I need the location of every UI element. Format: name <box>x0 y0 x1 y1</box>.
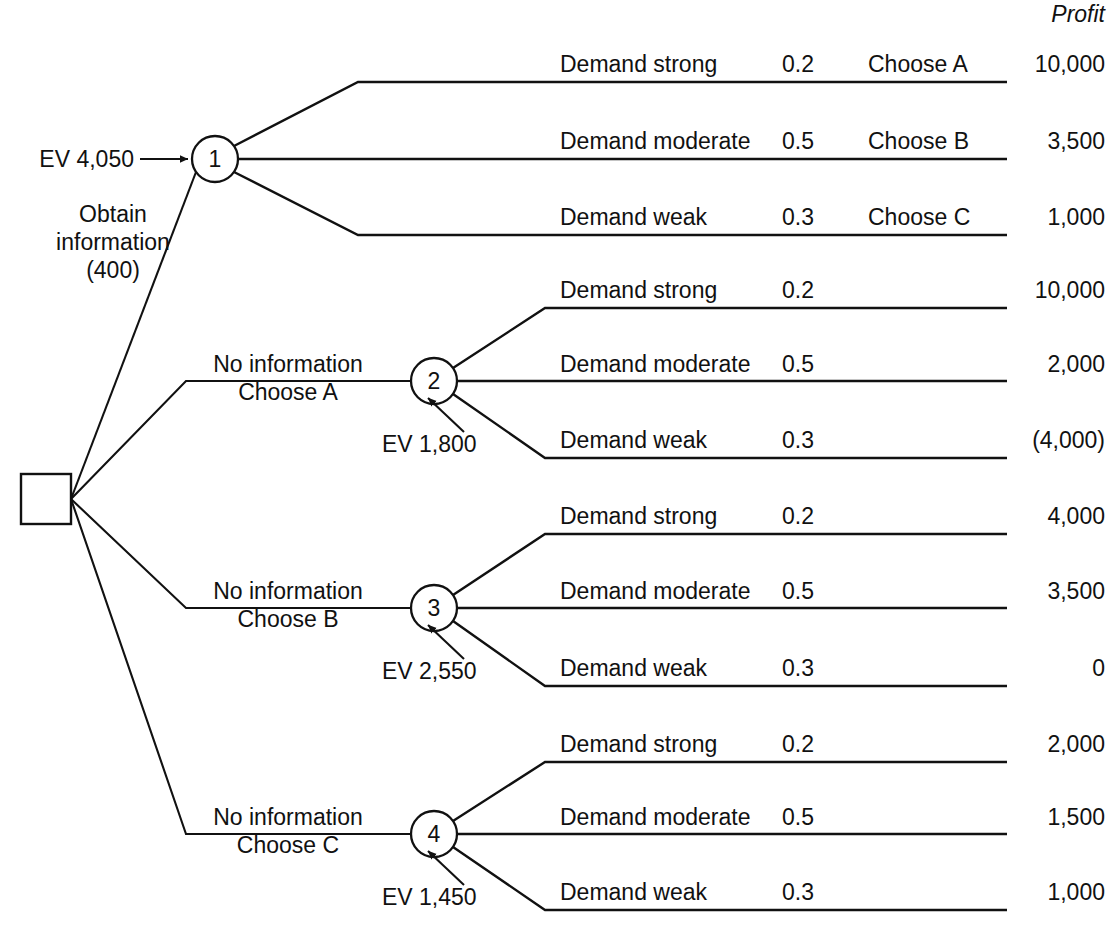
profit-value-2-3: (4,000) <box>1032 427 1105 453</box>
chance-node-2-number: 2 <box>428 368 441 394</box>
probability-label-1-2: 0.5 <box>782 128 814 154</box>
state-label-2-3: Demand weak <box>560 427 708 453</box>
state-label-2-2: Demand moderate <box>560 351 751 377</box>
profit-value-3-1: 4,000 <box>1047 503 1105 529</box>
choice-label-1-3: Choose C <box>868 204 970 230</box>
ev-arrow-node-4 <box>428 851 464 885</box>
state-label-1-2: Demand moderate <box>560 128 751 154</box>
ev-arrow-node-2 <box>428 398 464 432</box>
profit-column-header: Profit <box>1051 1 1106 27</box>
probability-label-2-1: 0.2 <box>782 277 814 303</box>
state-label-3-3: Demand weak <box>560 655 708 681</box>
state-label-3-1: Demand strong <box>560 503 717 529</box>
state-label-4-2: Demand moderate <box>560 804 751 830</box>
profit-value-3-2: 3,500 <box>1047 578 1105 604</box>
branch-label-obtain-information-line-2: information <box>56 229 170 255</box>
branch-no-information-choose-c[interactable] <box>71 499 414 834</box>
probability-label-1-3: 0.3 <box>782 204 814 230</box>
probability-label-4-3: 0.3 <box>782 879 814 905</box>
profit-value-2-2: 2,000 <box>1047 351 1105 377</box>
branch-label-no-information-c-line-2: Choose C <box>237 832 339 858</box>
branch-label-no-information-a-line-2: Choose A <box>238 379 338 405</box>
ev-arrow-node-3 <box>428 625 464 659</box>
branch-label-no-information-c-line-1: No information <box>213 804 363 830</box>
branch-label-no-information-b-line-1: No information <box>213 578 363 604</box>
state-label-4-3: Demand weak <box>560 879 708 905</box>
profit-value-1-1: 10,000 <box>1035 51 1105 77</box>
probability-label-3-2: 0.5 <box>782 578 814 604</box>
profit-value-2-1: 10,000 <box>1035 277 1105 303</box>
ev-label-node-4: EV 1,450 <box>382 884 477 910</box>
state-label-4-1: Demand strong <box>560 731 717 757</box>
tree-canvas: Profit 1 EV 4,050 Obtain information (40… <box>0 0 1117 937</box>
state-label-2-1: Demand strong <box>560 277 717 303</box>
outcome-line-2-3[interactable] <box>453 394 1007 458</box>
ev-label-node-2: EV 1,800 <box>382 431 477 457</box>
probability-label-2-3: 0.3 <box>782 427 814 453</box>
profit-value-1-2: 3,500 <box>1047 128 1105 154</box>
branch-label-obtain-information-line-3: (400) <box>86 257 140 283</box>
branch-label-obtain-information-line-1: Obtain <box>79 201 147 227</box>
state-label-1-1: Demand strong <box>560 51 717 77</box>
choice-label-1-2: Choose B <box>868 128 969 154</box>
probability-label-4-1: 0.2 <box>782 731 814 757</box>
profit-value-3-3: 0 <box>1092 655 1105 681</box>
profit-value-4-3: 1,000 <box>1047 879 1105 905</box>
profit-value-4-1: 2,000 <box>1047 731 1105 757</box>
probability-label-2-2: 0.5 <box>782 351 814 377</box>
probability-label-4-2: 0.5 <box>782 804 814 830</box>
probability-label-3-3: 0.3 <box>782 655 814 681</box>
profit-value-1-3: 1,000 <box>1047 204 1105 230</box>
chance-node-1-number: 1 <box>209 146 222 172</box>
branch-label-no-information-a-line-1: No information <box>213 351 363 377</box>
chance-node-3-number: 3 <box>428 595 441 621</box>
choice-label-1-1: Choose A <box>868 51 968 77</box>
outcome-line-4-3[interactable] <box>453 847 1007 910</box>
root-decision-node[interactable] <box>21 474 71 524</box>
state-label-3-2: Demand moderate <box>560 578 751 604</box>
outcome-line-3-3[interactable] <box>453 621 1007 686</box>
chance-node-4-number: 4 <box>428 821 441 847</box>
probability-label-3-1: 0.2 <box>782 503 814 529</box>
ev-label-node-1: EV 4,050 <box>39 146 134 172</box>
branch-label-no-information-b-line-2: Choose B <box>237 606 338 632</box>
decision-tree-diagram: Profit 1 EV 4,050 Obtain information (40… <box>0 0 1117 937</box>
probability-label-1-1: 0.2 <box>782 51 814 77</box>
ev-label-node-3: EV 2,550 <box>382 658 477 684</box>
profit-value-4-2: 1,500 <box>1047 804 1105 830</box>
state-label-1-3: Demand weak <box>560 204 708 230</box>
